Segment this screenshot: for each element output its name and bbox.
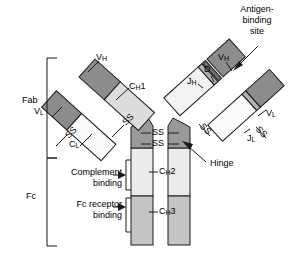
label-vh-right-sub: H (224, 55, 229, 62)
antibody-structure-diagram: Fab Fc VH CH1 VL CL VH D JH VL JL CH2 CH… (0, 0, 302, 260)
label-ch1-left: CH1 (129, 81, 146, 93)
callout-antigen-binding-site: Antigen- binding site (226, 4, 288, 37)
label-vl-left: VL (34, 106, 44, 118)
label-jh-sub: H (192, 79, 197, 86)
ch3-domain-left (131, 196, 153, 245)
label-jl-sub: L (252, 136, 256, 143)
vl-right-tick (258, 110, 266, 116)
label-vl-right-sub: L (272, 111, 276, 118)
label-vl-left-sub: L (40, 109, 44, 116)
label-vh-left-sub: H (102, 55, 107, 62)
label-cl-left-sub: L (76, 142, 80, 149)
label-ch3: CH3 (159, 206, 176, 218)
ss-tick-left-inner (112, 125, 124, 137)
label-vh-right: VH (218, 52, 229, 64)
ch3-domain-right (168, 196, 190, 245)
fc-region (126, 148, 190, 245)
label-ch2-suffix: 2 (171, 166, 176, 176)
region-label-fab: Fab (22, 95, 38, 105)
label-ch1-left-suffix: 1 (141, 81, 146, 91)
complement-binding-notch (126, 160, 131, 190)
label-vl-right: VL (266, 108, 276, 120)
label-ss-interheavy-lower: SS (152, 138, 164, 148)
fc-receptor-binding-notch (126, 198, 131, 232)
label-jl: JL (247, 133, 255, 145)
callout-fc-receptor-binding: Fc receptor binding (46, 199, 122, 221)
region-label-fc: Fc (26, 191, 36, 201)
ss-tick-left-outer (56, 135, 67, 146)
label-d-segment: D (204, 64, 211, 74)
label-cl-left: CL (69, 139, 79, 151)
callout-hinge: Hinge (210, 158, 234, 168)
label-ss-interheavy-upper: SS (152, 127, 164, 137)
label-ch2: CH2 (159, 166, 176, 178)
label-ch3-suffix: 3 (171, 206, 176, 216)
callout-complement-binding: Complement binding (46, 167, 122, 189)
label-jh: JH (187, 76, 197, 88)
label-vh-left: VH (96, 52, 107, 64)
